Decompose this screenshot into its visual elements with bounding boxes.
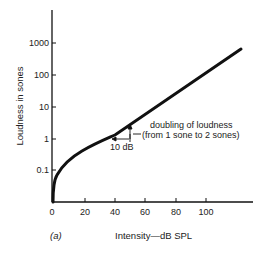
y-tick-label: 1000 (29, 38, 49, 48)
x-axis-label: Intensity—dB SPL (115, 230, 192, 241)
x-tick-label: 40 (110, 207, 120, 217)
annotation-doubling-line1: doubling of loudness (150, 120, 233, 130)
y-tick-label: 100 (34, 70, 49, 80)
annotation-doubling-arrow (128, 124, 141, 139)
y-tick-labels: 1000 100 10 1 0.1 (29, 38, 49, 175)
x-tick-labels: 0 20 40 60 80 100 (49, 207, 213, 217)
panel-label: (a) (50, 230, 62, 241)
x-tick-label: 0 (49, 207, 54, 217)
x-tick-label: 80 (171, 207, 181, 217)
annotation-10db-label: 10 dB (110, 142, 134, 152)
x-tick-label: 100 (198, 207, 213, 217)
x-tick-label: 20 (80, 207, 90, 217)
y-tick-label: 1 (44, 134, 49, 144)
y-tick-label: 0.1 (36, 165, 49, 175)
y-tick-label: 10 (39, 102, 49, 112)
y-axis-label: Loudness in sones (14, 66, 25, 145)
annotation-doubling-line2: (from 1 sone to 2 sones) (142, 130, 240, 140)
loudness-chart: 1000 100 10 1 0.1 0 20 40 60 80 100 Loud… (0, 0, 266, 254)
x-tick-label: 60 (140, 207, 150, 217)
